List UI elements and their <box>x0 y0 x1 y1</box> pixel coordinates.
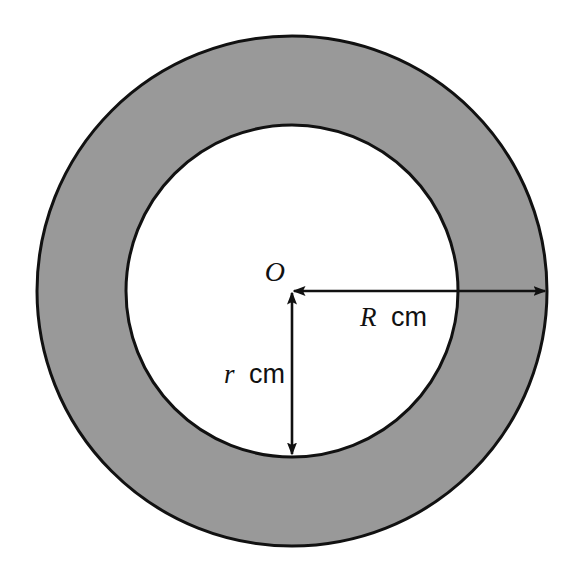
inner-radius-label: r cm <box>224 359 285 389</box>
inner-radius-variable: r <box>224 359 235 389</box>
annulus-diagram: O R cm r cm <box>0 0 578 571</box>
outer-radius-variable: R <box>359 302 377 332</box>
inner-radius-unit: cm <box>249 359 285 389</box>
outer-radius-unit: cm <box>391 302 427 332</box>
center-point-label: O <box>265 256 285 287</box>
annulus-figure: O R cm r cm <box>0 0 578 571</box>
outer-radius-label: R cm <box>359 302 427 332</box>
